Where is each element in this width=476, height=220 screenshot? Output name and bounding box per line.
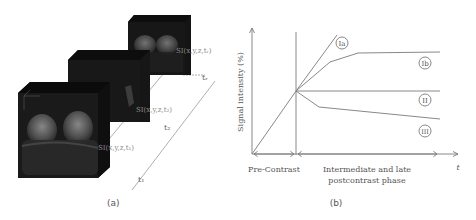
curve-ib bbox=[296, 52, 440, 91]
phase-post-label-line2: postcontrast phase bbox=[328, 176, 406, 185]
slice-label-t1: SI(x,y,z,t₁) bbox=[98, 144, 134, 152]
slice-label-t2: SI(x,y,z,t₂) bbox=[136, 106, 172, 114]
slice-label-tr: SI(x,y,z,tᵣ) bbox=[176, 47, 212, 55]
phase-post-label-line1: Intermediate and late bbox=[323, 165, 411, 174]
x-axis-label: t bbox=[456, 163, 460, 172]
panel-b-text: Ia Ib II III Signal intensity (%) t Pre-… bbox=[236, 40, 460, 208]
figure: SI(x,y,z,tᵣ) SI(x,y,z,t₂) bbox=[0, 0, 476, 220]
panel-a: SI(x,y,z,tᵣ) SI(x,y,z,t₂) bbox=[18, 15, 215, 208]
curve-label-iii: III bbox=[421, 128, 429, 136]
curve-iii bbox=[296, 91, 440, 119]
curve-rise bbox=[252, 91, 296, 154]
curve-label-ii: II bbox=[422, 97, 428, 105]
curve-ia bbox=[296, 35, 337, 91]
time-label-tr: tᵣ bbox=[202, 73, 208, 82]
curve-label-ib: Ib bbox=[421, 60, 429, 68]
panel-a-caption: (a) bbox=[107, 198, 120, 208]
curve-label-ia: Ia bbox=[339, 40, 346, 48]
y-axis-label: Signal intensity (%) bbox=[236, 52, 245, 132]
panel-b-caption: (b) bbox=[330, 198, 343, 208]
time-label-t1: t₁ bbox=[138, 175, 144, 184]
time-label-t2: t₂ bbox=[164, 123, 170, 132]
phase-pre-label: Pre-Contrast bbox=[248, 165, 301, 174]
